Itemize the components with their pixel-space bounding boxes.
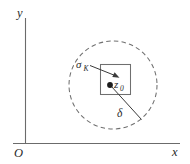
point-label-z: z bbox=[113, 78, 119, 90]
origin-label: O bbox=[14, 146, 23, 160]
point-label-subscript: 0 bbox=[120, 84, 124, 93]
radius-label-delta: δ bbox=[117, 107, 123, 119]
label-layer: y x O σ K z 0 δ bbox=[0, 0, 190, 164]
y-axis-label: y bbox=[15, 6, 23, 20]
region-label-subscript: K bbox=[83, 64, 90, 73]
region-label-sigma: σ bbox=[76, 58, 82, 70]
x-axis-label: x bbox=[171, 145, 178, 159]
figure-canvas: y x O σ K z 0 δ bbox=[0, 0, 190, 164]
